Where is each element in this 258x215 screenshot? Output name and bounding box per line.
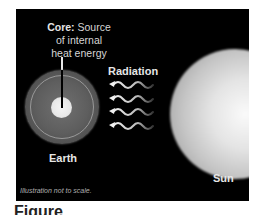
earth-illustration: [25, 70, 99, 144]
core-pointer-line: [61, 57, 63, 71]
sun-illustration: [170, 49, 249, 179]
figure-caption: Figure: [14, 204, 63, 215]
core-pointer-line-inner: [61, 70, 63, 108]
core-label-text1: Source: [75, 21, 111, 33]
core-label-title: Core:: [47, 21, 74, 33]
scale-note: Illustration not to scale.: [20, 187, 92, 194]
core-label: Core: Source of internal heat energy: [34, 21, 124, 60]
core-label-text2: of internal: [56, 34, 102, 46]
diagram-panel: Core: Source of internal heat energy Ear…: [16, 9, 249, 201]
earth-label: Earth: [38, 152, 88, 164]
core-label-text3: heat energy: [51, 47, 106, 59]
radiation-waves-icon: [109, 79, 157, 139]
sun-label: Sun: [213, 172, 234, 184]
radiation-label: Radiation: [108, 65, 158, 77]
